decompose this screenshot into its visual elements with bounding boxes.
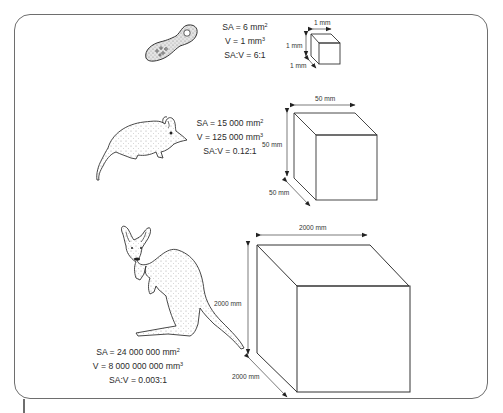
cube-50mm-height-label: 50 mm: [262, 141, 282, 148]
kangaroo-stats: SA = 24 000 000 mm2 V = 8 000 000 000 mm…: [73, 345, 203, 387]
cube-2000mm-height-label: 2000 mm: [214, 300, 242, 307]
surface-area-text: SA = 24 000 000 mm2: [73, 345, 203, 359]
cube-1mm-width-label: 1 mm: [314, 19, 330, 26]
ratio-text: SA:V = 6:1: [205, 48, 285, 62]
cube-1mm-depth-label: 1 mm: [290, 62, 306, 69]
amoeba-illustration: [146, 25, 197, 61]
cube-50mm: [287, 105, 377, 206]
cube-2000mm-depth-label: 2000 mm: [232, 373, 260, 380]
volume-text: V = 8 000 000 000 mm3: [73, 359, 203, 373]
cube-1mm: [306, 29, 340, 68]
marsupial-mouse-illustration: [97, 117, 187, 180]
amoeba-stats: SA = 6 mm2 V = 1 mm3 SA:V = 6:1: [205, 20, 285, 62]
cube-1mm-height-label: 1 mm: [286, 42, 302, 49]
surface-area-text: SA = 6 mm2: [205, 20, 285, 34]
cube-2000mm-width-label: 2000 mm: [299, 224, 327, 231]
cube-2000mm: [248, 235, 410, 397]
cube-50mm-depth-label: 50 mm: [269, 189, 289, 196]
surface-area-text: SA = 15 000 mm2: [180, 116, 280, 130]
volume-text: V = 1 mm3: [205, 34, 285, 48]
cube-50mm-width-label: 50 mm: [315, 95, 335, 102]
ratio-text: SA:V = 0.003:1: [73, 373, 203, 387]
mouse-stats: SA = 15 000 mm2 V = 125 000 mm3 SA:V = 0…: [180, 116, 280, 158]
kangaroo-illustration: [121, 226, 244, 349]
